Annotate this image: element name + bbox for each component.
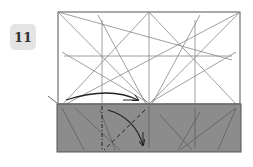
origami-diagram: [0, 0, 253, 167]
folded-band: [57, 104, 241, 152]
upper-paper: [48, 12, 240, 104]
